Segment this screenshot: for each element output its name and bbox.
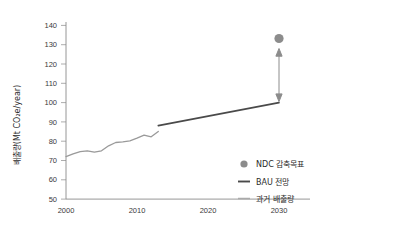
y-tick-label-140: 140 bbox=[44, 21, 57, 30]
legend-label-ndc: NDC 감축목표 bbox=[256, 159, 304, 169]
y-tick-label-110: 110 bbox=[45, 79, 57, 88]
y-tick-label-90: 90 bbox=[49, 118, 57, 127]
y-tick-label-50: 50 bbox=[49, 195, 57, 204]
chart-canvas: 배출량(Mt CO₂e/year) 140 130 120 110 100 90… bbox=[0, 0, 396, 247]
y-tick-label-130: 130 bbox=[44, 40, 57, 49]
y-axis-title: 배출량(Mt CO₂e/year) bbox=[12, 85, 22, 165]
emissions-chart: 배출량(Mt CO₂e/year) 140 130 120 110 100 90… bbox=[0, 0, 396, 247]
x-tick-label-2030: 2030 bbox=[271, 206, 288, 215]
gap-arrow bbox=[276, 49, 282, 102]
legend-marker-ndc-icon bbox=[240, 160, 247, 167]
x-tick-label-2010: 2010 bbox=[129, 206, 146, 215]
y-tick-label-80: 80 bbox=[49, 137, 57, 146]
x-tick-label-2020: 2020 bbox=[200, 206, 217, 215]
y-tick-label-70: 70 bbox=[49, 156, 57, 165]
y-tick-label-60: 60 bbox=[49, 175, 57, 184]
y-tick-label-120: 120 bbox=[44, 60, 57, 69]
x-tick-label-2000: 2000 bbox=[58, 206, 75, 215]
series-bau-projection bbox=[158, 103, 279, 126]
series-ndc-target-point bbox=[274, 34, 283, 43]
legend-label-bau: BAU 전망 bbox=[256, 177, 290, 187]
y-tick-marks bbox=[61, 25, 66, 199]
series-historical-emissions bbox=[66, 131, 158, 156]
y-tick-label-100: 100 bbox=[44, 98, 57, 107]
legend-label-historical: 과거 배출량 bbox=[256, 194, 295, 204]
chart-legend: NDC 감축목표 BAU 전망 과거 배출량 bbox=[238, 159, 304, 204]
